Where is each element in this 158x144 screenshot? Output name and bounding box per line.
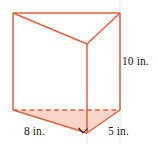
triangular-prism-diagram — [0, 0, 158, 144]
dimension-label-depth: 8 in. — [24, 126, 45, 138]
dimension-label-height: 10 in. — [122, 56, 149, 68]
geometry-figure-container: 10 in. 8 in. 5 in. — [0, 0, 158, 144]
dimension-label-width: 5 in. — [108, 126, 129, 138]
